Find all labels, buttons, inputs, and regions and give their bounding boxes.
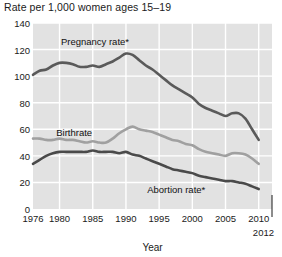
x-axis-title: Year [142,242,162,253]
chart-container: Rate per 1,000 women ages 15–19 02040608… [0,0,282,257]
series-label-0: Pregnancy rate* [61,36,129,47]
x-axis-tick-1995: 1995 [149,213,170,224]
series-label-1: Birthrate [56,127,92,138]
x-axis-tick-labels: 197619801985199019952000200520102012 [0,0,282,257]
x-axis-tick-1985: 1985 [82,213,103,224]
x-axis-tick-1990: 1990 [115,213,136,224]
series-label-2: Abortion rate* [147,184,205,195]
x-axis-tick-2005: 2005 [215,213,236,224]
x-axis-tick-1980: 1980 [49,213,70,224]
x-axis-tick-2010: 2010 [248,213,269,224]
x-axis-tick-1976: 1976 [22,213,43,224]
x-axis-tick-end-2012: 2012 [253,227,274,238]
x-axis-tick-2000: 2000 [182,213,203,224]
